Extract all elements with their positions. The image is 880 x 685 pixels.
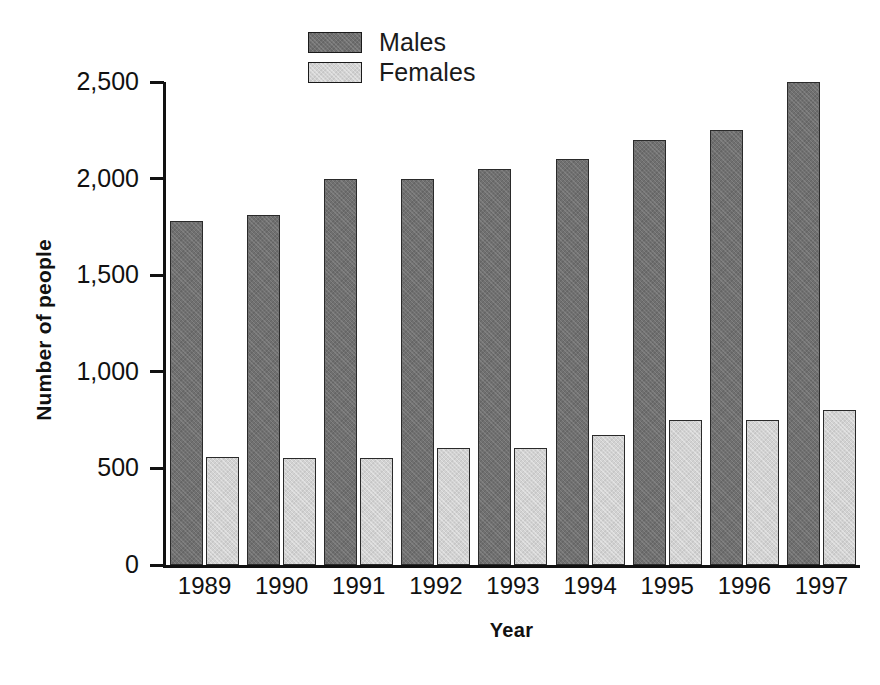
y-axis-tick-mark — [150, 564, 164, 567]
legend-label-males: Males — [379, 30, 446, 55]
y-axis-tick-mark — [150, 81, 164, 84]
bar-males-1996 — [710, 130, 743, 565]
bar-females-1992 — [437, 448, 470, 565]
bar-group: 1993 — [474, 82, 551, 565]
bar-males-1993 — [478, 169, 511, 565]
y-axis-title: Number of people — [32, 210, 56, 450]
x-axis-tick-label: 1989 — [166, 574, 243, 598]
bar-males-1992 — [401, 179, 434, 565]
bar-females-1993 — [514, 448, 547, 565]
bar-group: 1990 — [243, 82, 320, 565]
legend-swatch-males-icon — [308, 32, 362, 53]
bar-group: 1995 — [629, 82, 706, 565]
bar-females-1997 — [823, 410, 856, 565]
x-axis-tick-label: 1991 — [320, 574, 397, 598]
bar-males-1989 — [170, 221, 203, 565]
bar-males-1991 — [324, 179, 357, 565]
x-axis-line — [163, 565, 860, 568]
x-axis-tick-label: 1996 — [706, 574, 783, 598]
bar-group: 1992 — [397, 82, 474, 565]
chart-legend: Males Females — [308, 28, 548, 88]
y-axis-tick-label: 1,000 — [9, 359, 139, 384]
x-axis-tick-label: 1994 — [552, 574, 629, 598]
bar-groups: 198919901991199219931994199519961997 — [166, 82, 860, 565]
y-axis-tick-mark — [150, 370, 164, 373]
bar-group: 1989 — [166, 82, 243, 565]
x-axis-tick-label: 1992 — [397, 574, 474, 598]
y-axis-tick-mark — [150, 274, 164, 277]
bar-females-1995 — [669, 420, 702, 565]
bar-chart: Males Females Number of people 05001,000… — [0, 0, 880, 685]
x-axis-tick-label: 1990 — [243, 574, 320, 598]
legend-label-females: Females — [379, 60, 476, 85]
bar-males-1994 — [556, 159, 589, 565]
bar-group: 1991 — [320, 82, 397, 565]
y-axis-tick-label: 2,000 — [9, 166, 139, 191]
bar-males-1995 — [633, 140, 666, 565]
y-axis-tick-mark — [150, 467, 164, 470]
bar-group: 1994 — [552, 82, 629, 565]
y-axis-tick-mark — [150, 177, 164, 180]
x-axis-title: Year — [163, 619, 860, 642]
y-axis-tick-label: 0 — [9, 552, 139, 577]
y-axis-tick-label: 500 — [9, 455, 139, 480]
x-axis-tick-label: 1995 — [629, 574, 706, 598]
x-axis-tick-label: 1997 — [783, 574, 860, 598]
x-axis-tick-label: 1993 — [474, 574, 551, 598]
legend-swatch-females-icon — [308, 62, 362, 83]
y-axis-tick-label: 1,500 — [9, 262, 139, 287]
bar-group: 1997 — [783, 82, 860, 565]
legend-item-males: Males — [308, 28, 548, 56]
y-axis-tick-label: 2,500 — [9, 69, 139, 94]
bar-group: 1996 — [706, 82, 783, 565]
bar-females-1991 — [360, 458, 393, 565]
bar-males-1997 — [787, 82, 820, 565]
plot-area: 05001,0001,5002,0002,500 198919901991199… — [163, 82, 860, 565]
bar-males-1990 — [247, 215, 280, 565]
bar-females-1994 — [592, 435, 625, 565]
bar-females-1989 — [206, 457, 239, 565]
bar-females-1996 — [746, 420, 779, 565]
bar-females-1990 — [283, 458, 316, 565]
